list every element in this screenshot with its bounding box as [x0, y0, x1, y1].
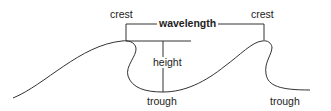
height-label: height	[153, 57, 182, 68]
wave-curve	[13, 41, 310, 98]
crest-left-label: crest	[110, 9, 133, 20]
trough-left-label: trough	[147, 96, 177, 107]
trough-right-label: trough	[270, 96, 300, 107]
crest-right-label: crest	[251, 9, 274, 20]
wave-diagram: crest wavelength crest height trough tro…	[0, 0, 331, 111]
wavelength-label: wavelength	[157, 18, 218, 29]
